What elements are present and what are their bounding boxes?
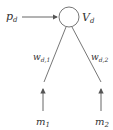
source-2-label: m2 [95, 116, 109, 129]
edge-1 [44, 27, 66, 82]
edge-1-label: wd,1 [33, 52, 50, 63]
input-label: pd [6, 10, 18, 24]
node-label: Vd [82, 11, 95, 25]
node-circle [59, 7, 79, 27]
source-1-label: m1 [36, 116, 50, 129]
diagram-canvas: pd Vd wd,1 wd,2 m1 m2 [0, 0, 113, 130]
edge-2-label: wd,2 [91, 52, 108, 63]
